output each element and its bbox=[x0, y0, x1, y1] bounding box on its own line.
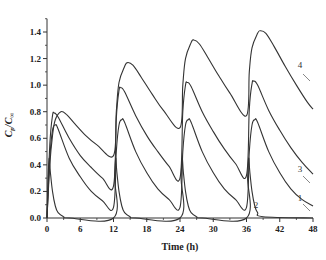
x-tick-label: 36 bbox=[242, 224, 252, 234]
x-tick-label: 42 bbox=[275, 224, 285, 234]
axes: 0.00.20.40.60.81.01.21.40612182430364248 bbox=[30, 19, 318, 234]
series-3-curve bbox=[47, 81, 313, 218]
y-tick-label: 1.2 bbox=[30, 54, 42, 64]
x-tick-label: 48 bbox=[309, 224, 319, 234]
series-4-curve bbox=[47, 31, 313, 218]
x-tick-label: 18 bbox=[142, 224, 152, 234]
curve-label-4: 4 bbox=[298, 60, 303, 70]
curve-label-1: 1 bbox=[298, 193, 303, 203]
y-tick-label: 0.6 bbox=[30, 133, 42, 143]
series-1-curve bbox=[47, 119, 313, 218]
pharmacokinetic-line-chart: 0.00.20.40.60.81.01.21.40612182430364248… bbox=[0, 0, 326, 260]
x-tick-label: 6 bbox=[78, 224, 83, 234]
curve-label-2: 2 bbox=[254, 200, 259, 210]
curve-label-3: 3 bbox=[298, 164, 303, 174]
x-axis-title: Time (h) bbox=[162, 241, 199, 253]
y-tick-label: 1.4 bbox=[30, 27, 42, 37]
y-axis-title: Cp/C∞ bbox=[3, 113, 16, 138]
svg-text:Cp/C∞: Cp/C∞ bbox=[3, 113, 16, 138]
x-tick-label: 12 bbox=[109, 224, 119, 234]
curve-label-leader bbox=[303, 204, 310, 211]
x-tick-label: 0 bbox=[45, 224, 50, 234]
series-2-curve bbox=[47, 158, 313, 221]
x-tick-label: 24 bbox=[176, 224, 186, 234]
y-tick-label: 0.0 bbox=[30, 213, 42, 223]
x-tick-label: 30 bbox=[209, 224, 219, 234]
curve-label-leader bbox=[303, 176, 310, 183]
y-tick-label: 0.4 bbox=[30, 160, 42, 170]
curves bbox=[47, 31, 313, 222]
curve-label-leader bbox=[303, 74, 310, 81]
y-tick-label: 1.0 bbox=[30, 80, 42, 90]
y-tick-label: 0.2 bbox=[30, 186, 42, 196]
y-tick-label: 0.8 bbox=[30, 107, 42, 117]
